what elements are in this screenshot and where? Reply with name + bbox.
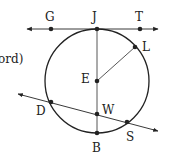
point-label-j: J xyxy=(90,10,97,24)
point-label-e: E xyxy=(81,72,90,86)
partial-text: ord) xyxy=(0,52,23,66)
point-s xyxy=(125,120,130,125)
point-label-t: T xyxy=(135,10,143,24)
point-b xyxy=(95,131,100,136)
point-w xyxy=(95,112,100,117)
point-e xyxy=(95,79,100,84)
point-t xyxy=(138,27,143,32)
point-label-b: B xyxy=(92,141,101,155)
point-label-s: S xyxy=(126,130,134,144)
point-label-l: L xyxy=(142,40,150,54)
point-d xyxy=(49,100,54,105)
circle-diagram: ord) GJTLEWDSB xyxy=(0,0,169,156)
point-label-g: G xyxy=(45,10,55,24)
point-j xyxy=(95,27,100,32)
point-l xyxy=(133,45,138,50)
point-label-d: D xyxy=(36,104,46,118)
point-g xyxy=(49,27,54,32)
point-label-w: W xyxy=(102,103,115,117)
radius-EL xyxy=(97,47,135,81)
